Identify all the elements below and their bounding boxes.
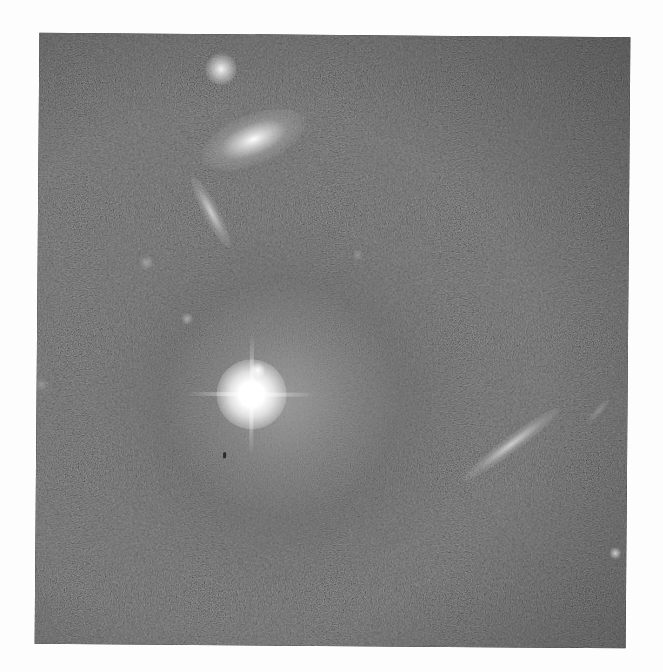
page: [0, 0, 663, 672]
astronomical-photo: [35, 33, 631, 649]
vignette: [35, 33, 631, 649]
